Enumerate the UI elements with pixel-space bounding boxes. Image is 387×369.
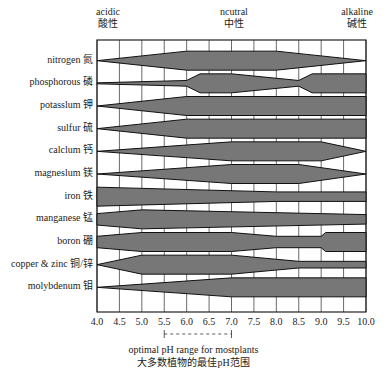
nutrient-band (97, 51, 366, 70)
optimal-range-label: optimal pH range for mostplants 大多数植物的最佳… (0, 343, 387, 369)
nutrient-band (97, 255, 366, 274)
nutrient-band (97, 97, 366, 116)
optimal-range-zh: 大多数植物的最佳pH范围 (0, 356, 387, 369)
optimal-range-en: optimal pH range for mostplants (0, 343, 387, 356)
nutrient-label: magneslum 镁 (34, 167, 93, 179)
nutrient-band (97, 119, 366, 138)
nutrient-band (97, 278, 366, 297)
nutrient-label: potasslum 钾 (40, 99, 93, 111)
nutrient-label: iron 铁 (64, 190, 93, 202)
nutrient-band (97, 142, 366, 161)
nutrient-band (97, 74, 366, 93)
nutrient-label: molybdenum 钼 (28, 280, 93, 292)
nutrient-label: manganese 锰 (36, 212, 93, 224)
nutrient-label: phosphorous 磷 (29, 76, 93, 88)
nutrient-label: nitrogen 氮 (47, 54, 93, 66)
nutrient-label: copper & zinc 铜/锌 (11, 258, 93, 270)
nutrient-label: sulfur 硫 (57, 122, 93, 134)
x-tick-label: 10.0 (351, 316, 381, 327)
nutrient-band (97, 210, 366, 229)
nutrient-band (97, 233, 366, 252)
nutrient-label: calclum 钙 (49, 144, 93, 156)
nutrient-label: boron 硼 (57, 235, 93, 247)
nutrient-band (97, 165, 366, 184)
